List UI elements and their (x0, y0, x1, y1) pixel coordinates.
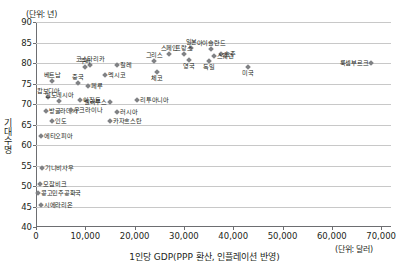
data-point-label: 영국 (183, 63, 195, 69)
gridline (36, 145, 391, 146)
data-point-label: 멕시코 (108, 72, 125, 78)
y-tick-label: 55 (21, 161, 32, 171)
data-point-label: 프랑스 (175, 45, 192, 51)
data-point-label: 페루 (91, 82, 103, 88)
x-tick-label: 40,000 (218, 231, 248, 241)
plot-area: 9085807570656055504540010,00020,00030,00… (36, 22, 391, 227)
data-point (49, 118, 55, 124)
y-tick-label: 50 (21, 181, 32, 191)
x-tick-label: 20,000 (120, 231, 150, 241)
data-point-label: 우크라이나 (74, 107, 103, 113)
data-point-label: 미국 (242, 70, 254, 76)
data-point-label: 인도네시아 (45, 92, 74, 98)
data-point-label: 에티오피아 (44, 133, 73, 139)
data-point (35, 190, 41, 196)
y-tick-mark (33, 166, 36, 167)
y-tick-mark (33, 22, 36, 23)
x-tick-label: 70,000 (366, 231, 396, 241)
y-tick-label: 65 (21, 120, 32, 130)
y-tick-mark (33, 84, 36, 85)
data-point (78, 97, 84, 103)
y-tick-mark (33, 43, 36, 44)
data-point-label: 시에라리온 (44, 202, 73, 208)
data-point (166, 51, 172, 57)
data-point-label: 쿠바 (80, 57, 92, 63)
y-tick-label: 70 (21, 99, 32, 109)
y-tick-mark (33, 145, 36, 146)
y-tick-mark (33, 125, 36, 126)
data-point (107, 118, 113, 124)
data-point (38, 133, 44, 139)
y-tick-label: 80 (21, 58, 32, 68)
gridline (36, 22, 391, 23)
x-tick-label: 0 (33, 231, 38, 241)
data-point-label: 카자흐스탄 (113, 118, 142, 124)
x-tick-mark (135, 227, 136, 230)
x-tick-mark (85, 227, 86, 230)
y-tick-label: 40 (21, 222, 32, 232)
y-tick-label: 45 (21, 202, 32, 212)
x-axis-line (36, 226, 391, 227)
y-tick-label: 90 (21, 17, 32, 27)
data-point (211, 53, 217, 59)
gridline (36, 207, 391, 208)
y-tick-label: 85 (21, 38, 32, 48)
x-tick-mark (233, 227, 234, 230)
x-axis-unit: (단위: 달러) (335, 243, 373, 254)
data-point (43, 109, 49, 115)
y-tick-mark (33, 63, 36, 64)
y-tick-label: 60 (21, 140, 32, 150)
gridline (36, 186, 391, 187)
y-tick-mark (33, 207, 36, 208)
data-point-label: 기니비사우 (45, 164, 74, 170)
y-axis-title: 기대수명 (2, 118, 11, 154)
y-tick-label: 75 (21, 79, 32, 89)
data-point-label: 스웨덴 (217, 53, 234, 59)
x-tick-mark (36, 227, 37, 230)
x-tick-label: 50,000 (268, 231, 298, 241)
x-tick-mark (283, 227, 284, 230)
x-tick-mark (184, 227, 185, 230)
data-point-label: 인도 (55, 118, 67, 124)
data-point-label: 콩고민주공화국 (41, 189, 81, 195)
data-point-label: 스페인 (161, 44, 178, 50)
x-tick-label: 60,000 (317, 231, 347, 241)
data-point (75, 80, 81, 86)
data-point-label: 아이슬란드 (197, 39, 226, 45)
data-point (368, 60, 374, 66)
x-tick-label: 10,000 (70, 231, 100, 241)
data-point-label: 모잠비크 (43, 180, 66, 186)
data-point-label: 러시아 (120, 109, 137, 115)
gridline (36, 166, 391, 167)
data-point (181, 52, 187, 58)
data-point-label: 칠레 (120, 62, 132, 68)
x-tick-mark (381, 227, 382, 230)
x-tick-mark (332, 227, 333, 230)
scatter-chart: (단위: 년) 기대수명 9085807570656055504540010,0… (0, 0, 409, 275)
data-point (115, 109, 121, 115)
data-point-label: 룩셈부르크 (340, 60, 369, 66)
x-tick-label: 30,000 (169, 231, 199, 241)
data-point-label: 베트남 (44, 72, 61, 78)
data-point-label: 독일 (203, 64, 215, 70)
data-point (134, 97, 140, 103)
data-point-label: 벨라루스 (84, 98, 107, 104)
data-point (56, 98, 62, 104)
y-tick-mark (33, 186, 36, 187)
data-point-label: 체코 (151, 75, 163, 81)
data-point (208, 46, 214, 52)
data-point-label: 중국 (72, 73, 84, 79)
data-point (102, 72, 108, 78)
data-point-label: 그리스 (146, 51, 163, 57)
data-point-label: 리투아니아 (140, 97, 169, 103)
gridline (36, 125, 391, 126)
y-tick-mark (33, 104, 36, 105)
